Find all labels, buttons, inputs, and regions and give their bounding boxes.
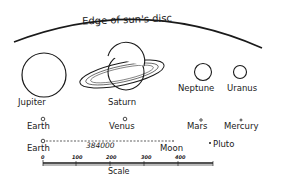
pluto-label: Pluto: [213, 140, 234, 149]
venus-label: Venus: [109, 122, 135, 131]
earth-label: Earth: [27, 122, 50, 131]
neptune-circle: [195, 64, 212, 81]
saturn-label: Saturn: [108, 98, 136, 107]
scale-bar: [43, 160, 213, 166]
jupiter-circle: [22, 53, 66, 97]
planet-size-diagram: Edge of sun's disc Jupiter Saturn Neptun…: [0, 0, 281, 186]
moon-dot: [172, 140, 174, 142]
uranus-label: Uranus: [227, 84, 257, 93]
uranus-circle: [234, 66, 247, 79]
earth-moon-earth-label: Earth: [27, 144, 50, 153]
mercury-label: Mercury: [224, 122, 258, 131]
scale-tick-0: 0: [41, 155, 44, 160]
scale-tick-100: 100: [72, 155, 82, 160]
neptune-label: Neptune: [178, 84, 214, 93]
scale-label: Scale: [108, 168, 130, 176]
pluto-dot: [209, 142, 211, 144]
scale-tick-300: 300: [141, 155, 151, 160]
jupiter-label: Jupiter: [18, 98, 46, 107]
mars-label: Mars: [187, 122, 207, 131]
scale-tick-200: 200: [106, 155, 116, 160]
saturn-drawing: [78, 42, 167, 93]
earth-moon-distance-label: 384000: [86, 142, 115, 150]
scale-tick-400: 400: [175, 155, 185, 160]
moon-label: Moon: [160, 144, 183, 153]
